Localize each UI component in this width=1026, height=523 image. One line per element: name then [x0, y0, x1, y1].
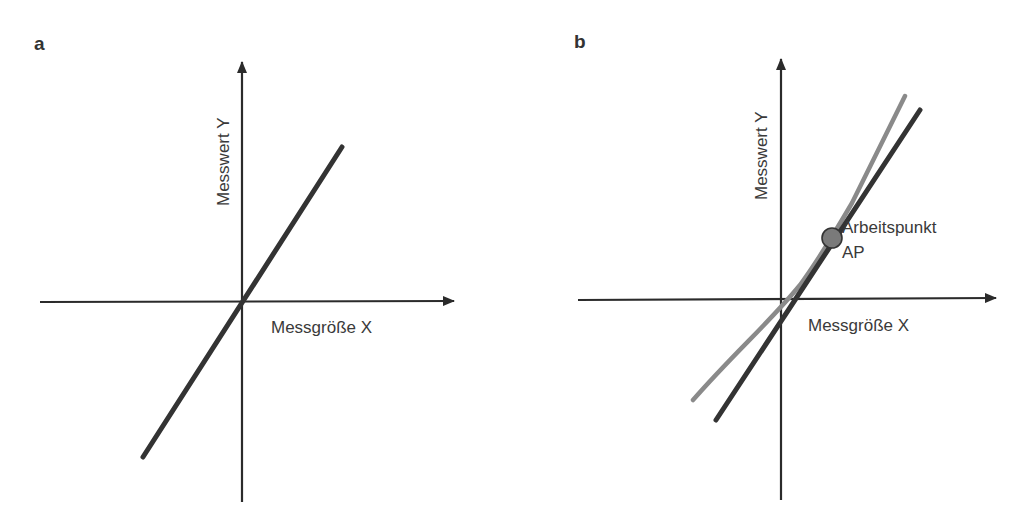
panel-b-label: b: [574, 31, 586, 52]
x-axis-arrow: [40, 301, 454, 302]
panel-a: a Messwert Y Messgröße X: [34, 33, 454, 502]
real-nonlinear-curve: [693, 96, 905, 400]
x-axis-label: Messgröße X: [271, 318, 372, 337]
y-axis-label: Messwert Y: [214, 118, 233, 207]
operating-point-label-line1: Arbeitspunkt: [842, 218, 937, 237]
figure-canvas: a Messwert Y Messgröße X b Messwert Y Me…: [0, 0, 1026, 523]
linearized-characteristic-line: [716, 110, 920, 420]
panel-b: b Messwert Y Messgröße X Arbeitspunkt AP: [574, 31, 996, 500]
x-axis-label: Messgröße X: [808, 316, 909, 335]
y-axis-label: Messwert Y: [752, 112, 771, 201]
panel-a-label: a: [34, 33, 45, 54]
operating-point-marker: [822, 228, 842, 248]
operating-point-label-line2: AP: [842, 243, 865, 262]
